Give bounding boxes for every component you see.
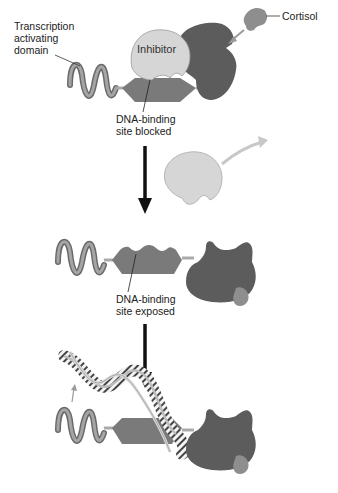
label-cortisol: Cortisol	[282, 10, 318, 22]
stage-3	[58, 352, 256, 474]
activating-domain-leader	[55, 55, 80, 66]
label-activating-domain: Transcription activating domain	[14, 20, 74, 56]
label-binding-site-blocked: DNA-binding site blocked	[116, 113, 176, 137]
stage-1	[55, 8, 280, 112]
inhibitor-exit-arrow	[222, 142, 262, 164]
dna-binding-domain-exposed	[112, 245, 182, 274]
stage-2	[58, 136, 268, 306]
dna-binding-domain	[122, 78, 196, 102]
down-arrow-1	[138, 146, 152, 214]
diagram-canvas	[0, 0, 338, 493]
label-inhibitor: Inhibitor	[137, 43, 176, 55]
cortisol-molecule	[244, 8, 267, 31]
released-inhibitor	[164, 152, 222, 204]
label-binding-site-exposed: DNA-binding site exposed	[116, 293, 176, 317]
